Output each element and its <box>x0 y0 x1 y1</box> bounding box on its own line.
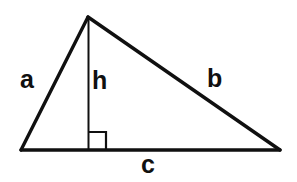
right-angle-marker-icon <box>88 132 106 150</box>
diagram-canvas: a h b c <box>0 0 297 182</box>
altitude-h-label: h <box>92 68 107 93</box>
side-a-label: a <box>20 67 34 92</box>
base-c-label: c <box>141 152 155 177</box>
side-b-label: b <box>207 66 222 91</box>
side-b-line <box>88 17 280 150</box>
